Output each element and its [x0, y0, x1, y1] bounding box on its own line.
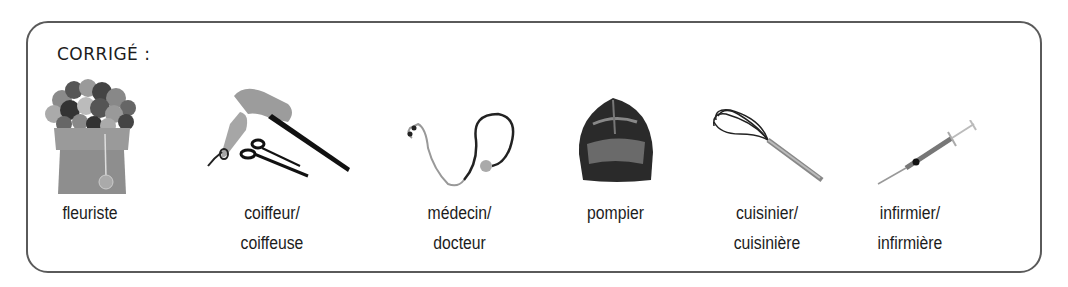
label-infirmier: infirmier/ infirmière — [865, 198, 955, 258]
heading: CORRIGÉ : — [57, 44, 150, 64]
label-cuisinier: cuisinier/ cuisinière — [722, 198, 812, 258]
label-pompier: pompier — [573, 198, 659, 228]
label-coiffeur: coiffeur/ coiffeuse — [227, 198, 317, 258]
hairdryer-scissors-comb-icon — [200, 82, 350, 182]
syringe-icon — [876, 120, 978, 186]
firefighter-helmet-icon — [573, 94, 657, 184]
flower-bouquet-icon — [44, 78, 136, 196]
stethoscope-icon — [398, 108, 523, 190]
whisk-icon — [710, 104, 826, 184]
label-fleuriste: fleuriste — [49, 198, 132, 228]
label-medecin: médecin/ docteur — [417, 198, 503, 258]
